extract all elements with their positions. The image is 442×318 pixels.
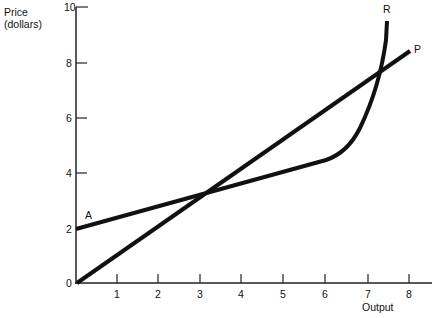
y-tick-6: 6: [66, 112, 72, 124]
y-tick-4: 4: [66, 167, 72, 179]
x-tick-2: 2: [155, 288, 161, 300]
x-tick-5: 5: [280, 288, 286, 300]
label-a: A: [85, 209, 92, 221]
line-p: [77, 51, 410, 283]
y-ticks: [76, 7, 88, 173]
label-r: R: [383, 3, 391, 15]
y-axis-label-line2: (dollars): [4, 18, 42, 30]
x-tick-3: 3: [197, 288, 203, 300]
label-p: P: [414, 43, 421, 55]
y-tick-8: 8: [66, 57, 72, 69]
x-tick-4: 4: [238, 288, 244, 300]
x-axis-label: Output: [362, 301, 394, 313]
chart: Price (dollars) 10 8 6 4 2 0 1 2 3 4 5 6…: [0, 0, 442, 318]
x-ticks: [117, 274, 409, 283]
x-tick-7: 7: [365, 288, 371, 300]
x-tick-6: 6: [322, 288, 328, 300]
y-axis-label-line1: Price: [4, 6, 28, 18]
y-tick-0: 0: [66, 277, 72, 289]
curve-ar: [76, 21, 387, 229]
y-tick-10: 10: [64, 1, 76, 13]
x-tick-8: 8: [406, 288, 412, 300]
x-tick-1: 1: [114, 288, 120, 300]
y-tick-2: 2: [66, 223, 72, 235]
